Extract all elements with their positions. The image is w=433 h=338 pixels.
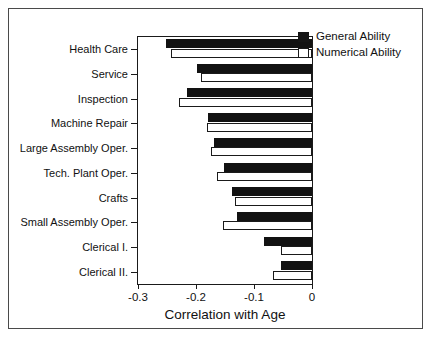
category-tick: [131, 198, 138, 199]
category-label: Clerical II.: [79, 266, 128, 277]
x-axis-tick: [138, 284, 139, 289]
category-label: Clerical I.: [82, 241, 128, 252]
category-tick: [131, 222, 138, 223]
category-tick: [131, 173, 138, 174]
bar-numerical-ability: [201, 73, 312, 82]
bar-group: Large Assembly Oper.: [138, 137, 312, 160]
category-label: Health Care: [69, 44, 128, 55]
x-axis-tick-label: -0.3: [128, 291, 148, 303]
bar-group: Inspection: [138, 87, 312, 110]
bar-group: Small Assembly Oper.: [138, 211, 312, 234]
x-axis-tick-label: 0: [309, 291, 315, 303]
bar-general-ability: [187, 88, 312, 97]
chart-legend: General Ability Numerical Ability: [298, 29, 401, 61]
legend-item-numerical-ability: Numerical Ability: [298, 45, 401, 61]
bar-numerical-ability: [273, 271, 312, 280]
bar-numerical-ability: [179, 98, 312, 107]
legend-label-numerical-ability: Numerical Ability: [316, 47, 401, 59]
bar-general-ability: [214, 138, 312, 147]
legend-swatch-filled-square-icon: [298, 32, 309, 42]
bar-numerical-ability: [281, 246, 312, 255]
category-label: Small Assembly Oper.: [20, 217, 128, 228]
category-tick: [131, 247, 138, 248]
x-axis-tick: [254, 284, 255, 289]
bar-numerical-ability: [207, 123, 312, 132]
bar-general-ability: [208, 113, 312, 122]
category-tick: [131, 99, 138, 100]
category-tick: [131, 272, 138, 273]
category-tick: [131, 148, 138, 149]
category-label: Tech. Plant Oper.: [44, 167, 128, 178]
bar-numerical-ability: [171, 49, 312, 58]
bar-group: Clerical II.: [138, 260, 312, 283]
category-tick: [131, 74, 138, 75]
x-axis-tick-label: -0.1: [244, 291, 264, 303]
category-label: Crafts: [99, 192, 128, 203]
bar-numerical-ability: [217, 172, 312, 181]
x-axis-tick: [312, 284, 313, 289]
legend-label-general-ability: General Ability: [316, 31, 390, 43]
category-label: Large Assembly Oper.: [20, 143, 128, 154]
x-axis-tick: [196, 284, 197, 289]
category-label: Machine Repair: [51, 118, 128, 129]
bar-numerical-ability: [235, 197, 312, 206]
bar-general-ability: [166, 39, 312, 48]
bar-numerical-ability: [211, 147, 313, 156]
chart-figure: Health CareServiceInspectionMachine Repa…: [0, 0, 433, 338]
legend-item-general-ability: General Ability: [298, 29, 401, 45]
category-label: Service: [91, 69, 128, 80]
bar-group: Machine Repair: [138, 112, 312, 135]
bar-general-ability: [264, 237, 312, 246]
x-axis-tick-label: -0.2: [186, 291, 206, 303]
x-axis-label: Correlation with Age: [137, 307, 313, 322]
category-label: Inspection: [78, 93, 128, 104]
bar-group: Service: [138, 63, 312, 86]
category-tick: [131, 49, 138, 50]
bar-general-ability: [197, 64, 312, 73]
bar-general-ability: [237, 212, 312, 221]
bar-numerical-ability: [223, 221, 312, 230]
bar-general-ability: [224, 163, 312, 172]
bar-group: Clerical I.: [138, 236, 312, 259]
bar-general-ability: [232, 187, 312, 196]
bar-group: Crafts: [138, 186, 312, 209]
bar-general-ability: [281, 261, 312, 270]
legend-swatch-open-square-icon: [298, 48, 309, 58]
bar-group: Health Care: [138, 38, 312, 61]
plot-area: Health CareServiceInspectionMachine Repa…: [137, 36, 313, 285]
bar-group: Tech. Plant Oper.: [138, 162, 312, 185]
category-tick: [131, 123, 138, 124]
